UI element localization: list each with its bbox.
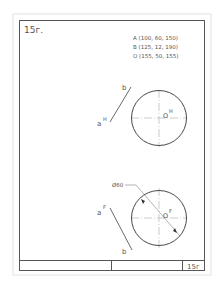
title-block-number: 15г	[187, 263, 200, 271]
label-o-top-super: H	[169, 108, 173, 114]
label-b-top: b	[122, 84, 127, 92]
label-o-front-super: F	[169, 208, 172, 214]
dimension-arrow-upper	[141, 199, 145, 204]
sheet-number: 15г.	[24, 25, 43, 35]
outer-border	[13, 14, 211, 275]
coord-o: O (155, 50, 155)	[133, 53, 178, 59]
diameter-dimension-line	[136, 185, 180, 236]
front-view: b a F O F Ø60	[97, 182, 187, 256]
label-a-front: a	[97, 209, 101, 217]
label-a-top: a	[97, 120, 101, 128]
label-o-top: O	[163, 112, 168, 120]
label-b-front: b	[122, 248, 127, 256]
segment-ab-front	[110, 208, 132, 250]
coord-b: B (125, 12, 190)	[133, 44, 178, 50]
label-o-front: O	[163, 212, 168, 220]
coord-a: A (100, 60, 150)	[133, 35, 178, 41]
drawing-sheet: 15г. A (100, 60, 150) B (125, 12, 190) O…	[0, 0, 224, 287]
segment-ab-top	[110, 87, 131, 122]
label-a-top-super: H	[103, 116, 107, 122]
label-a-front-super: F	[103, 204, 106, 210]
top-view: b a H O H	[97, 84, 187, 147]
diameter-label: Ø60	[112, 182, 124, 188]
